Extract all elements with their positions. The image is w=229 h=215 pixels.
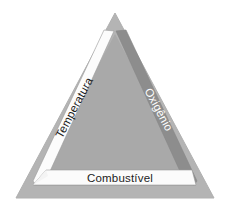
inner-triangle-core: [34, 34, 196, 186]
fire-triangle-diagram: Temperatura Oxigênio Combustível: [0, 0, 229, 215]
fire-triangle-graphic: Temperatura Oxigênio Combustível: [0, 0, 229, 215]
label-combustivel: Combustível: [87, 172, 153, 184]
